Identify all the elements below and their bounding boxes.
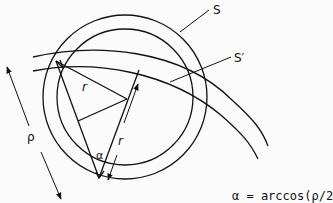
geometry-figure: S S′ r r ρ α α = arccos(ρ/2 (0, 0, 333, 203)
label-s-prime: S′ (234, 51, 245, 65)
arc-upper (33, 50, 268, 146)
radius-arrow-down (108, 155, 117, 180)
label-s: S (213, 3, 221, 17)
outer-circle-s (43, 15, 207, 179)
label-radius-top: r (82, 80, 88, 94)
leader-line-s-prime (170, 57, 231, 82)
rho-arrow-up (7, 67, 29, 126)
leader-line-s (180, 10, 209, 32)
perpendicular-segment (78, 99, 127, 121)
rho-arrow-down (41, 152, 61, 199)
label-rho: ρ (27, 130, 35, 144)
triangle-right-side (99, 70, 139, 178)
triangle-left-side (56, 61, 99, 178)
inner-circle-s-prime (57, 29, 193, 165)
arc-lower (33, 67, 258, 159)
diagram-canvas: S S′ r r ρ α α = arccos(ρ/2 (0, 0, 333, 203)
label-alpha: α (96, 149, 103, 162)
label-radius-side: r (118, 134, 124, 148)
formula-text: α = arccos(ρ/2 (232, 189, 333, 203)
